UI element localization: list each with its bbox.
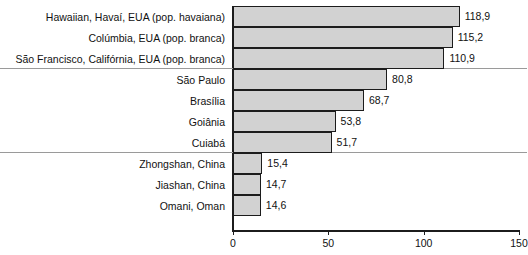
bar-value-label: 51,7 xyxy=(337,136,357,148)
x-axis-line xyxy=(233,230,520,232)
bar xyxy=(233,174,261,195)
bar-value-label: 115,2 xyxy=(458,31,484,43)
bar-value-label: 14,7 xyxy=(266,178,286,190)
bar xyxy=(233,48,444,69)
bar-value-label: 118,9 xyxy=(465,10,491,22)
category-label: Omani, Oman xyxy=(0,200,229,212)
x-axis-tick-label: 150 xyxy=(510,237,528,249)
bar xyxy=(233,153,262,174)
category-label: Goiânia xyxy=(0,116,229,128)
bar-value-label: 110,9 xyxy=(449,52,475,64)
category-label: São Francisco, Califórnia, EUA (pop. bra… xyxy=(0,53,229,65)
category-label: Cuiabá xyxy=(0,137,229,149)
category-label: Brasília xyxy=(0,95,229,107)
x-axis-tick-label: 0 xyxy=(230,237,236,249)
bar xyxy=(233,132,332,153)
bar-value-label: 80,8 xyxy=(392,73,412,85)
x-axis-tick-label: 100 xyxy=(415,237,433,249)
bar-value-label: 14,6 xyxy=(266,199,286,211)
plot-area: 118,9115,2110,980,868,753,851,715,414,71… xyxy=(233,6,519,230)
x-axis-tick xyxy=(233,230,234,235)
category-label: São Paulo xyxy=(0,74,229,86)
x-axis-tick xyxy=(519,230,520,235)
category-label: Zhongshan, China xyxy=(0,158,229,170)
bar xyxy=(233,6,460,27)
x-axis-tick xyxy=(328,230,329,235)
bar-value-label: 15,4 xyxy=(267,157,287,169)
bar xyxy=(233,27,453,48)
x-axis-tick-label: 50 xyxy=(322,237,334,249)
bar xyxy=(233,69,387,90)
bar xyxy=(233,111,336,132)
category-label: Hawaiian, Havaí, EUA (pop. havaiana) xyxy=(0,11,229,23)
bar-value-label: 53,8 xyxy=(341,115,361,127)
bar xyxy=(233,195,261,216)
x-axis-tick xyxy=(424,230,425,235)
bar-value-label: 68,7 xyxy=(369,94,389,106)
category-label: Jiashan, China xyxy=(0,179,229,191)
bar xyxy=(233,90,364,111)
category-label: Colúmbia, EUA (pop. branca) xyxy=(0,32,229,44)
